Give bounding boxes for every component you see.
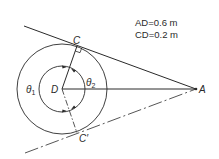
tangent-line-C-prime-A xyxy=(25,89,196,153)
label-D: D xyxy=(51,84,58,95)
given-AD: AD=0.6 m xyxy=(135,17,178,28)
given-CD: CD=0.2 m xyxy=(135,29,178,40)
label-theta1: θ1 xyxy=(26,84,35,96)
label-theta2: θ2 xyxy=(86,77,95,89)
label-C: C xyxy=(73,35,81,46)
label-A: A xyxy=(198,84,206,95)
tangent-circle-diagram: C C′ D A θ1 θ2 AD=0.6 m CD=0.2 m xyxy=(0,0,219,159)
point-A-dot xyxy=(195,88,198,91)
label-C-prime: C′ xyxy=(79,133,89,144)
